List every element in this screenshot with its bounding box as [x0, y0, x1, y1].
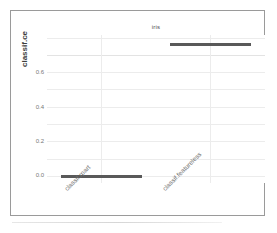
y-tick-label-0.0: 0.0: [14, 172, 44, 178]
gridline-minor-0.3: [47, 124, 265, 125]
gridline-minor-0.5: [47, 89, 265, 90]
gridline-major-0.70: [47, 55, 265, 56]
y-tick-label-0.6: 0.6: [14, 69, 44, 75]
plot-screenshot: iris classif.ce 0.6 0.4 0.2 0.0 classif.…: [0, 0, 277, 233]
gridline-minor-0.1: [47, 159, 265, 160]
box-mark-classif-featureless[interactable]: [170, 43, 251, 46]
gridline-major-0.2: [47, 141, 265, 142]
baseline-artifact: [12, 222, 222, 223]
plot-device-frame: iris classif.ce 0.6 0.4 0.2 0.0 classif.…: [10, 10, 265, 216]
gridline-major-0.6: [47, 72, 265, 73]
gridline-major-0.4: [47, 107, 265, 108]
plot-panel: [47, 35, 265, 183]
gridline-minor-0.70: [47, 38, 265, 39]
y-tick-label-0.2: 0.2: [14, 138, 44, 144]
vgridline-classif-featureless: [210, 35, 211, 183]
y-axis-tick-labels: 0.6 0.4 0.2 0.0: [11, 35, 44, 183]
vgridline-classif-rpart: [101, 35, 102, 183]
y-tick-label-0.4: 0.4: [14, 104, 44, 110]
plot-title: iris: [47, 24, 265, 30]
